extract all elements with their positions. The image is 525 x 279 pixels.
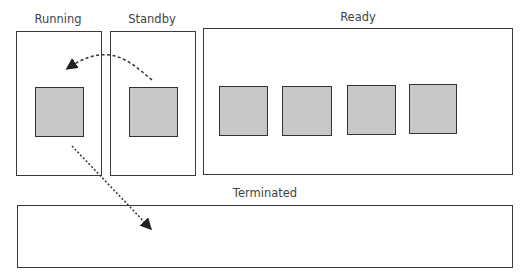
ready-label: Ready [340,10,376,24]
ready-process-2 [282,86,332,136]
terminated-state-box [17,205,513,268]
ready-process-1 [219,86,268,136]
running-label: Running [34,12,81,26]
standby-label: Standby [128,12,176,26]
ready-process-3 [347,85,396,135]
running-process [35,87,84,137]
ready-process-4 [409,84,457,134]
standby-process [129,87,178,137]
terminated-label: Terminated [233,186,297,200]
